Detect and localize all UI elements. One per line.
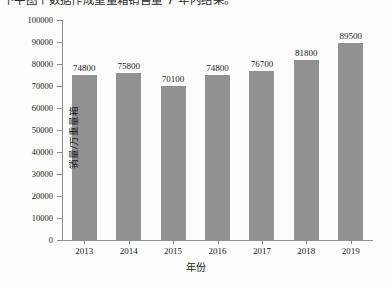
y-tick bbox=[57, 240, 62, 241]
y-tick-label: 100000 bbox=[0, 16, 53, 25]
y-tick-label: 10000 bbox=[0, 214, 53, 223]
x-tick-label: 2018 bbox=[284, 246, 328, 257]
y-tick-label: 70000 bbox=[0, 82, 53, 91]
x-tick bbox=[129, 240, 130, 244]
y-axis-title: 销量/万重量箱 bbox=[68, 93, 79, 183]
x-tick bbox=[306, 240, 307, 244]
x-tick bbox=[262, 240, 263, 244]
y-tick-label: 80000 bbox=[0, 60, 53, 69]
y-tick-label: 0 bbox=[0, 236, 53, 245]
x-tick-label: 2015 bbox=[151, 246, 195, 257]
y-tick-label: 60000 bbox=[0, 104, 53, 113]
x-tick-label: 2014 bbox=[106, 246, 150, 257]
x-tick bbox=[218, 240, 219, 244]
x-tick-label: 2019 bbox=[329, 246, 373, 257]
bar-chart: 0100002000030000400005000060000700008000… bbox=[0, 0, 391, 286]
x-tick-label: 2017 bbox=[240, 246, 284, 257]
y-tick-label: 90000 bbox=[0, 38, 53, 47]
x-tick bbox=[351, 240, 352, 244]
x-tick-label: 2016 bbox=[195, 246, 239, 257]
y-tick-label: 50000 bbox=[0, 126, 53, 135]
chart-page: 下平图个数据作成重量箱销售量 7 年内结果。 01000020000300004… bbox=[0, 0, 391, 286]
y-tick-label: 40000 bbox=[0, 148, 53, 157]
y-tick-label: 30000 bbox=[0, 170, 53, 179]
y-tick-label: 20000 bbox=[0, 192, 53, 201]
x-tick bbox=[173, 240, 174, 244]
plot-area: 销量/万重量箱 bbox=[62, 20, 372, 240]
x-axis-title: 年份 bbox=[0, 262, 391, 274]
x-tick-label: 2013 bbox=[62, 246, 106, 257]
x-tick bbox=[84, 240, 85, 244]
